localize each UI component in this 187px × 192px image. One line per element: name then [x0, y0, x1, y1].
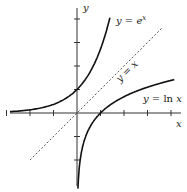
- plot-canvas: x y y = ex y = x y = ln x: [0, 0, 187, 192]
- ln-curve-label: y = ln x: [142, 93, 182, 104]
- y-axis: y: [74, 2, 89, 186]
- x-axis-label: x: [176, 118, 182, 129]
- exp-curve: [10, 18, 110, 112]
- exp-curve-label: y = ex: [115, 14, 146, 26]
- identity-line-label: y = x: [113, 58, 140, 85]
- function-graph: x y y = ex y = x y = ln x: [0, 0, 187, 192]
- y-axis-label: y: [82, 2, 89, 13]
- identity-line: [30, 28, 162, 160]
